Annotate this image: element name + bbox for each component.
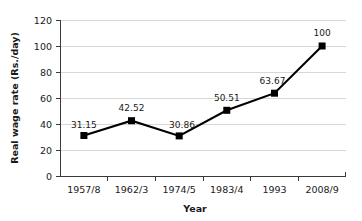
line-chart: 120 100 80 60 40 20 0 1957/8 1962/3 1974… [0,0,362,221]
y-tick-label-80: 80 [40,67,52,78]
data-point-marker-1 [80,132,87,139]
y-tick-label-20: 20 [40,145,52,156]
x-tick-label-1974-5: 1974/5 [162,184,195,195]
data-point-marker-3 [176,132,183,139]
data-point-marker-2 [128,117,135,124]
chart-container: 120 100 80 60 40 20 0 1957/8 1962/3 1974… [0,0,362,221]
data-point-marker-6 [319,43,326,50]
x-tick-label-1983-4: 1983/4 [210,184,243,195]
y-tick-label-0: 0 [46,171,52,182]
y-tick-label-60: 60 [40,93,52,104]
y-axis-title: Real wage rate (Rs./day) [9,32,20,164]
x-tick-label-1962-3: 1962/3 [115,184,148,195]
data-label-2: 42.52 [119,103,145,113]
data-label-3: 30.86 [169,120,195,130]
data-label-5: 63.67 [260,76,286,86]
x-tick-label-1957-8: 1957/8 [67,184,100,195]
data-point-marker-5 [271,90,278,97]
data-label-1: 31.15 [71,120,97,130]
x-tick-label-1993: 1993 [262,184,286,195]
data-point-marker-4 [223,107,230,114]
data-label-6: 100 [314,28,331,38]
y-tick-label-100: 100 [34,41,52,52]
y-tick-label-120: 120 [34,15,52,26]
x-tick-label-2008-9: 2008/9 [305,184,338,195]
y-tick-label-40: 40 [40,119,52,130]
x-axis-title: Year [182,203,207,214]
data-label-4: 50.51 [214,93,240,103]
